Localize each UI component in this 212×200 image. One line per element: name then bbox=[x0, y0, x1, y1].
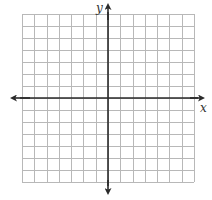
coordinate-plane: y x bbox=[0, 0, 212, 200]
x-axis-label: x bbox=[200, 101, 207, 115]
y-axis-label: y bbox=[95, 1, 103, 15]
